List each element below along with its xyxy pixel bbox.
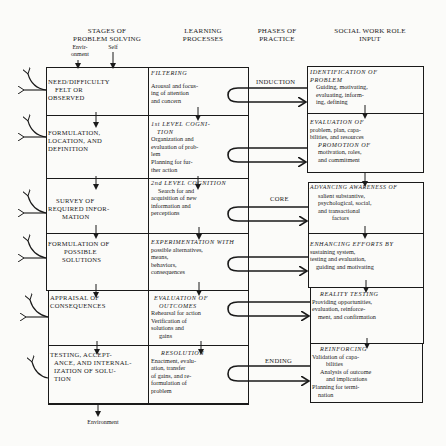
- feedback-arrows-left: [24, 74, 48, 378]
- diagram-arrows: [0, 0, 446, 446]
- loop-arrows: [228, 88, 310, 381]
